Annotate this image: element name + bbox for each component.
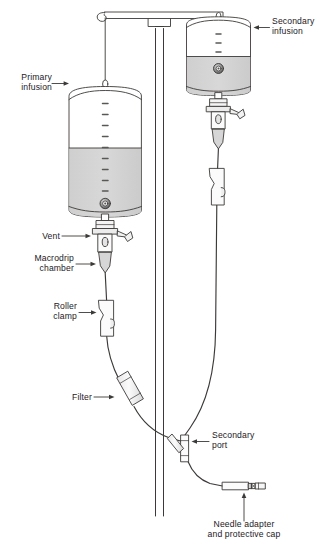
primary-bag [69,87,141,221]
secondary-bag [187,13,251,99]
label-filter: Filter [58,392,92,402]
label-vent: Vent [18,231,60,241]
roller-clamp [99,300,115,336]
secondary-port [168,434,189,462]
protective-cap [255,483,265,489]
primary-hook [97,13,108,88]
leader-needle-adapter [242,493,247,522]
inline-filter [117,371,143,405]
leader-filter [94,395,115,400]
label-secondary-port: Secondary port [212,430,274,451]
primary-spike-vent-assembly [93,221,133,273]
leader-vent [62,234,91,239]
label-macrodrip-chamber: Macrodrip chamber [12,253,74,274]
leader-primary-infusion [52,81,69,86]
primary-bag-injection-port [100,198,110,208]
secondary-bag-injection-port [214,64,224,74]
label-roller-clamp: Roller clamp [36,301,77,322]
leader-secondary-infusion [254,25,270,30]
vent-cap [118,231,133,242]
needle-adapter [223,482,266,490]
secondary-roller-clamp [210,168,225,205]
label-secondary-infusion: Secondary infusion [272,16,332,37]
secondary-spike-vent-assembly [207,99,245,149]
label-primary-infusion: Primary infusion [6,72,52,93]
leader-macrodrip-chamber [76,262,96,267]
figure-canvas: Primary infusion Secondary infusion Vent… [0,0,335,555]
leader-secondary-port [192,439,210,444]
label-needle-adapter: Needle adapter and protective cap [186,519,302,540]
leader-roller-clamp [79,310,97,315]
secondary-vent-cap [230,109,245,119]
